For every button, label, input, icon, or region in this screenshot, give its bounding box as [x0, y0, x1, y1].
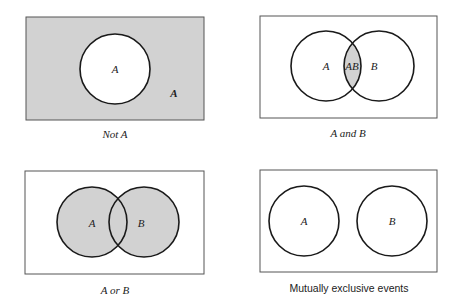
label-a: A	[322, 60, 330, 72]
label-a: A	[88, 217, 96, 229]
universe-rect	[260, 170, 437, 272]
caption-a-and-b: A and B	[329, 127, 366, 139]
panel-a-and-b: A AB B A and B	[260, 16, 437, 139]
panel-mutually-exclusive: A B Mutually exclusive events	[260, 170, 437, 294]
label-b: B	[371, 60, 378, 72]
panel-a-or-b: A B A or B	[25, 171, 204, 296]
panel-not-a: A A Not A	[26, 17, 204, 140]
label-b: B	[389, 215, 396, 227]
label-a: A	[300, 215, 308, 227]
label-a: A	[111, 63, 119, 75]
venn-diagrams: A A Not A A AB B A and B A B A or B A B …	[0, 0, 461, 307]
caption-not-a: Not A	[101, 128, 127, 140]
label-ab: AB	[344, 60, 359, 72]
label-b: B	[138, 217, 145, 229]
caption-mutually-exclusive: Mutually exclusive events	[289, 282, 408, 294]
caption-a-or-b: A or B	[100, 284, 130, 296]
label-not-a: A	[169, 87, 177, 99]
